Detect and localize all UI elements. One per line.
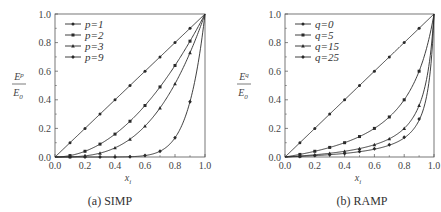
series-curves xyxy=(55,14,205,159)
legend-label: q=25 xyxy=(315,51,339,63)
y-tick-label: 0.0 xyxy=(39,152,52,163)
legend-label: p=9 xyxy=(84,51,104,63)
panel-simp: 0.00.20.40.60.81.00.00.20.40.60.81.0 p=1… xyxy=(12,9,211,209)
y-tick-label: 0.8 xyxy=(269,37,282,48)
x-tick-label: 0.6 xyxy=(139,160,152,171)
legend: p=1p=2p=3p=9 xyxy=(65,18,104,63)
svg-text:E0: E0 xyxy=(12,87,23,101)
panel-ramp: 0.00.20.40.60.81.00.00.20.40.60.81.0 q=0… xyxy=(237,9,440,209)
series-curves xyxy=(285,14,434,158)
y-tick-label: 1.0 xyxy=(39,9,52,20)
x-tick-label: 0.8 xyxy=(169,160,182,171)
caption-ramp: (b) RAMP xyxy=(336,194,387,208)
caption-simp: (a) SIMP xyxy=(88,194,133,208)
svg-text:Eq: Eq xyxy=(238,71,249,82)
svg-text:Ep: Ep xyxy=(13,71,24,82)
y-axis-title: Ep E0 xyxy=(12,71,26,101)
x-tick-label: 1.0 xyxy=(199,160,212,171)
x-axis-title: xi xyxy=(354,172,361,186)
x-tick-label: 1.0 xyxy=(428,160,441,171)
x-tick-label: 0.4 xyxy=(109,160,122,171)
y-tick-label: 0.2 xyxy=(269,123,282,134)
x-tick-label: 0.4 xyxy=(338,160,351,171)
y-tick-label: 0.4 xyxy=(39,94,52,105)
y-tick-label: 0.6 xyxy=(39,66,52,77)
y-axis-title: Eq E0 xyxy=(237,71,251,101)
x-axis-title: xi xyxy=(124,172,131,186)
legend-item: p=9 xyxy=(65,51,104,63)
x-tick-label: 0.8 xyxy=(398,160,411,171)
y-tick-label: 0.0 xyxy=(269,152,282,163)
y-tick-label: 1.0 xyxy=(269,9,282,20)
figure: 0.00.20.40.60.81.00.00.20.40.60.81.0 p=1… xyxy=(0,0,441,212)
x-tick-label: 0.2 xyxy=(309,160,322,171)
y-tick-label: 0.8 xyxy=(39,37,52,48)
svg-text:E0: E0 xyxy=(237,87,248,101)
y-tick-label: 0.4 xyxy=(269,94,282,105)
y-tick-label: 0.6 xyxy=(269,66,282,77)
x-tick-label: 0.2 xyxy=(79,160,92,171)
legend: q=0q=5q=15q=25 xyxy=(295,18,339,63)
x-tick-label: 0.6 xyxy=(368,160,381,171)
y-tick-label: 0.2 xyxy=(39,123,52,134)
legend-item: q=25 xyxy=(295,51,339,63)
